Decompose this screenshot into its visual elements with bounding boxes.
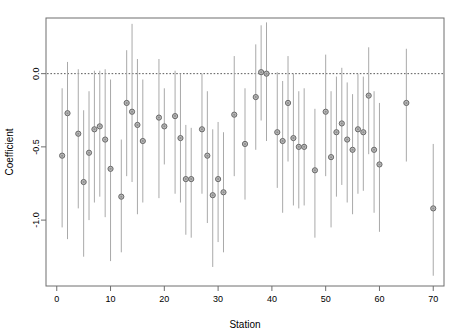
data-point-center bbox=[67, 112, 69, 114]
data-point-center bbox=[405, 102, 407, 104]
data-point-center bbox=[287, 102, 289, 104]
data-point-center bbox=[298, 146, 300, 148]
data-point-center bbox=[325, 111, 327, 113]
x-tick-label-30: 30 bbox=[213, 294, 223, 304]
data-point-center bbox=[292, 137, 294, 139]
plot-svg: 0102030405060700.0-0.5-1.0StationCoeffic… bbox=[0, 0, 458, 333]
data-point-center bbox=[158, 117, 160, 119]
data-point-center bbox=[341, 122, 343, 124]
data-point-center bbox=[120, 196, 122, 198]
data-point-center bbox=[104, 139, 106, 141]
data-point-center bbox=[368, 95, 370, 97]
data-point-center bbox=[126, 102, 128, 104]
data-point-center bbox=[222, 191, 224, 193]
data-point-center bbox=[346, 139, 348, 141]
data-point-center bbox=[378, 163, 380, 165]
data-point-center bbox=[201, 128, 203, 130]
data-point-center bbox=[282, 140, 284, 142]
data-point-center bbox=[303, 146, 305, 148]
y-tick-label-2: -1.0 bbox=[31, 212, 41, 228]
x-tick-label-10: 10 bbox=[106, 294, 116, 304]
x-tick-label-0: 0 bbox=[54, 294, 59, 304]
data-point-center bbox=[255, 96, 257, 98]
data-point-center bbox=[260, 71, 262, 73]
x-tick-label-70: 70 bbox=[428, 294, 438, 304]
data-point-center bbox=[362, 131, 364, 133]
data-point-center bbox=[314, 169, 316, 171]
data-point-center bbox=[163, 125, 165, 127]
x-tick-label-20: 20 bbox=[159, 294, 169, 304]
data-point-center bbox=[373, 149, 375, 151]
series-0 bbox=[60, 22, 436, 275]
data-point-center bbox=[233, 114, 235, 116]
data-point-center bbox=[206, 155, 208, 157]
data-point-center bbox=[276, 131, 278, 133]
data-point-center bbox=[217, 178, 219, 180]
data-point-center bbox=[190, 178, 192, 180]
y-tick-label-0: 0.0 bbox=[31, 67, 41, 80]
x-tick-label-60: 60 bbox=[374, 294, 384, 304]
data-point-center bbox=[432, 207, 434, 209]
data-point-center bbox=[93, 128, 95, 130]
data-point-center bbox=[185, 178, 187, 180]
coefficient-vs-station-chart: 0102030405060700.0-0.5-1.0StationCoeffic… bbox=[0, 0, 458, 333]
data-point-center bbox=[142, 140, 144, 142]
data-point-center bbox=[77, 133, 79, 135]
x-tick-label-40: 40 bbox=[267, 294, 277, 304]
x-axis-title: Station bbox=[229, 319, 260, 330]
data-point-center bbox=[136, 124, 138, 126]
data-point-center bbox=[174, 115, 176, 117]
y-axis-title: Coefficient bbox=[4, 128, 15, 175]
y-tick-label-1: -0.5 bbox=[31, 139, 41, 155]
data-point-center bbox=[352, 149, 354, 151]
data-point-center bbox=[88, 152, 90, 154]
data-point-center bbox=[212, 194, 214, 196]
x-tick-label-50: 50 bbox=[321, 294, 331, 304]
data-point-center bbox=[244, 143, 246, 145]
data-point-center bbox=[357, 128, 359, 130]
data-point-center bbox=[131, 111, 133, 113]
data-point-center bbox=[330, 156, 332, 158]
data-point-center bbox=[110, 168, 112, 170]
data-point-center bbox=[266, 73, 268, 75]
data-point-center bbox=[99, 125, 101, 127]
data-point-center bbox=[335, 131, 337, 133]
data-point-center bbox=[179, 137, 181, 139]
data-point-center bbox=[61, 155, 63, 157]
data-point-center bbox=[83, 181, 85, 183]
